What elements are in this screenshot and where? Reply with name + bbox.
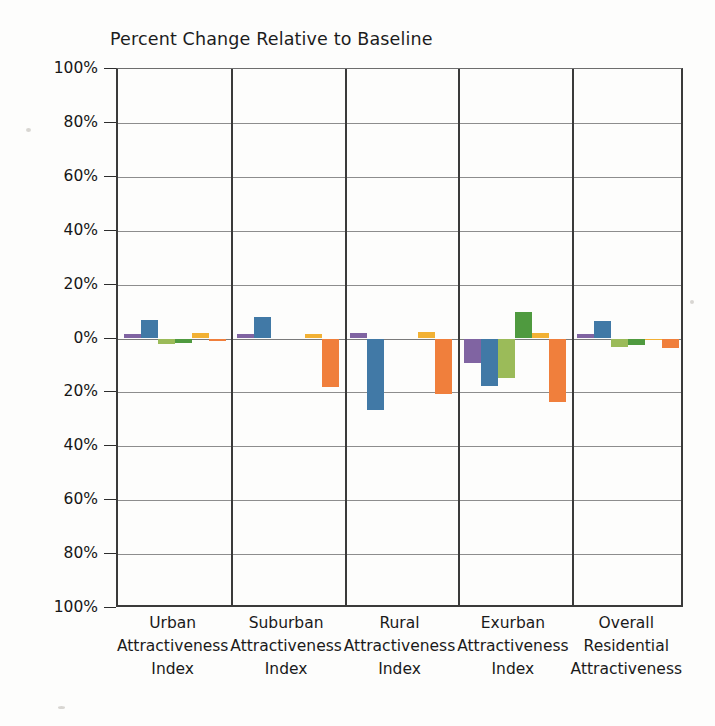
bar	[594, 321, 611, 339]
bar	[158, 339, 175, 344]
bar	[175, 339, 192, 343]
category-group	[458, 69, 571, 605]
y-axis-tick-mark	[104, 338, 116, 339]
bar	[367, 339, 384, 410]
y-axis-tick-label: 100%	[34, 598, 98, 616]
x-axis-label-line: Index	[343, 658, 456, 681]
bar	[418, 332, 435, 339]
y-axis: 100%80%60%40%20%0%20%40%60%80%100%	[22, 68, 98, 607]
bar	[350, 333, 367, 338]
y-axis-tick-label: 20%	[34, 382, 98, 400]
bar	[515, 312, 532, 339]
y-axis-tick-mark	[104, 553, 116, 554]
category-group	[345, 69, 458, 605]
x-axis-category-label: SuburbanAttractivenessIndex	[229, 612, 342, 681]
x-axis-label-line: Index	[116, 658, 229, 681]
x-axis-label-line: Overall	[570, 612, 683, 635]
category-group	[118, 69, 231, 605]
bar	[254, 317, 271, 339]
x-axis-category-label: UrbanAttractivenessIndex	[116, 612, 229, 681]
x-axis-label-line: Attractiveness	[116, 635, 229, 658]
x-axis-label-line: Rural	[343, 612, 456, 635]
bar	[435, 339, 452, 394]
y-axis-tick-mark	[104, 445, 116, 446]
bar	[577, 334, 594, 338]
y-axis-tick-label: 80%	[34, 113, 98, 131]
y-axis-tick-label: 60%	[34, 490, 98, 508]
y-axis-tick-label: 20%	[34, 275, 98, 293]
bar	[498, 339, 515, 378]
x-axis-label-line: Attractiveness	[343, 635, 456, 658]
y-axis-tick-label: 0%	[34, 329, 98, 347]
bar	[611, 339, 628, 347]
y-axis-tick-label: 60%	[34, 167, 98, 185]
y-axis-tick-mark	[104, 391, 116, 392]
x-axis-label-line: Residential	[570, 635, 683, 658]
category-group	[231, 69, 344, 605]
x-axis-category-label: RuralAttractivenessIndex	[343, 612, 456, 681]
bar	[305, 334, 322, 338]
plot-area	[116, 68, 683, 607]
bar	[532, 333, 549, 338]
bar	[141, 320, 158, 339]
bar	[662, 339, 679, 348]
x-axis-label-line: Index	[229, 658, 342, 681]
x-axis-category-label: OverallResidentialAttractiveness	[570, 612, 683, 681]
x-axis-label-line: Attractiveness	[570, 658, 683, 681]
x-axis: UrbanAttractivenessIndexSuburbanAttracti…	[116, 612, 683, 698]
scan-speck	[26, 128, 31, 132]
bar	[124, 334, 141, 338]
y-axis-tick-mark	[104, 230, 116, 231]
bar	[192, 333, 209, 338]
y-axis-tick-label: 80%	[34, 544, 98, 562]
y-axis-tick-mark	[104, 122, 116, 123]
scan-speck	[690, 300, 694, 304]
bar	[628, 339, 645, 346]
bar	[237, 334, 254, 338]
bar	[481, 339, 498, 386]
page-title: Percent Change Relative to Baseline	[110, 29, 433, 49]
x-axis-label-line: Exurban	[456, 612, 569, 635]
chart-page: Percent Change Relative to Baseline 100%…	[0, 0, 715, 726]
x-axis-label-line: Urban	[116, 612, 229, 635]
y-axis-tick-label: 100%	[34, 59, 98, 77]
y-axis-tick-label: 40%	[34, 436, 98, 454]
x-axis-category-label: ExurbanAttractivenessIndex	[456, 612, 569, 681]
bar	[549, 339, 566, 402]
x-axis-label-line: Attractiveness	[229, 635, 342, 658]
x-axis-label-line: Attractiveness	[456, 635, 569, 658]
y-axis-tick-mark	[104, 607, 116, 608]
bar	[464, 339, 481, 363]
category-group	[572, 69, 685, 605]
scan-speck	[58, 706, 65, 709]
x-axis-label-line: Index	[456, 658, 569, 681]
y-axis-tick-mark	[104, 68, 116, 69]
bar	[645, 339, 662, 341]
y-axis-tick-mark	[104, 499, 116, 500]
bar	[209, 339, 226, 342]
bar	[322, 339, 339, 388]
y-axis-tick-label: 40%	[34, 221, 98, 239]
x-axis-label-line: Suburban	[229, 612, 342, 635]
y-axis-tick-mark	[104, 284, 116, 285]
y-axis-tick-mark	[104, 176, 116, 177]
